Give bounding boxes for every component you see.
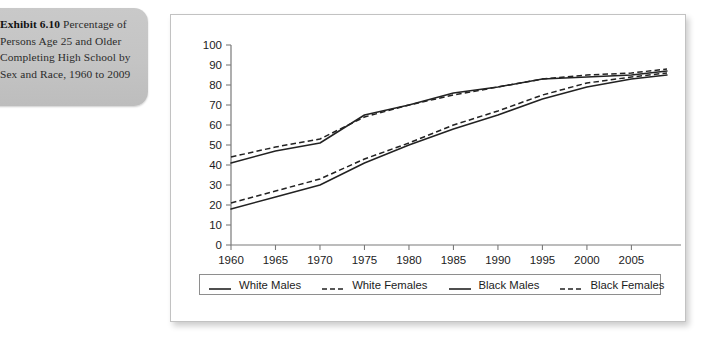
exhibit-label: Exhibit 6.10 — [0, 18, 60, 30]
axis-lines — [231, 45, 681, 245]
legend-label: Black Males — [479, 279, 540, 291]
caption-text: Exhibit 6.10 Percentage of Persons Age 2… — [0, 16, 138, 82]
y-tick-label: 90 — [209, 59, 222, 71]
legend-label: White Females — [352, 279, 427, 291]
y-tick-label: 60 — [209, 119, 222, 131]
x-tick-label: 1975 — [352, 254, 378, 266]
series-line-1 — [231, 69, 667, 157]
x-tick-label: 1980 — [396, 254, 422, 266]
y-tick-label: 50 — [209, 139, 222, 151]
y-tick-label: 40 — [209, 159, 222, 171]
x-tick-label: 1995 — [530, 254, 556, 266]
x-tick-label: 2005 — [619, 254, 645, 266]
legend-item-1: White Females — [321, 279, 427, 291]
series-line-3 — [231, 73, 667, 203]
x-tick-label: 2000 — [574, 254, 600, 266]
chart-card: 0102030405060708090100 19601965197019751… — [170, 14, 686, 322]
y-axis-ticks: 0102030405060708090100 — [203, 39, 231, 251]
legend-item-2: Black Males — [448, 279, 540, 291]
x-axis-ticks: 1960196519701975198019851990199520002005 — [218, 245, 644, 266]
x-tick-label: 1970 — [307, 254, 333, 266]
legend-solid-line-icon — [208, 280, 232, 290]
y-tick-label: 10 — [209, 219, 222, 231]
legend-label: Black Females — [590, 279, 664, 291]
series-line-2 — [231, 75, 667, 209]
exhibit-figure: Exhibit 6.10 Percentage of Persons Age 2… — [0, 0, 703, 338]
caption-panel: Exhibit 6.10 Percentage of Persons Age 2… — [0, 8, 148, 106]
legend-item-0: White Males — [208, 279, 301, 291]
x-tick-label: 1965 — [263, 254, 289, 266]
legend-dashed-line-icon — [321, 280, 345, 290]
legend-item-3: Black Females — [559, 279, 664, 291]
legend-label: White Males — [239, 279, 301, 291]
x-tick-label: 1985 — [441, 254, 467, 266]
legend-solid-line-icon — [448, 280, 472, 290]
y-tick-label: 30 — [209, 179, 222, 191]
y-tick-label: 70 — [209, 99, 222, 111]
y-tick-label: 20 — [209, 199, 222, 211]
y-tick-label: 80 — [209, 79, 222, 91]
series-group — [231, 69, 667, 209]
y-tick-label: 100 — [203, 39, 222, 51]
y-tick-label: 0 — [216, 239, 222, 251]
x-tick-label: 1990 — [485, 254, 511, 266]
chart-legend: White MalesWhite FemalesBlack MalesBlack… — [199, 274, 661, 295]
x-tick-label: 1960 — [218, 254, 244, 266]
legend-dashed-line-icon — [559, 280, 583, 290]
